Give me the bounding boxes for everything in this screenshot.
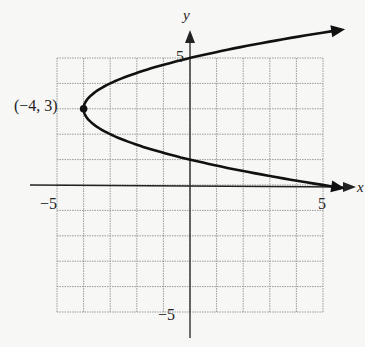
labels: x y −5 5 5 −5 (−4, 3) [14,7,364,323]
y-axis-arrow-icon [185,30,195,43]
y-tick-label-5: 5 [176,48,184,65]
y-axis-label: y [181,7,190,23]
parabola-chart: x y −5 5 5 −5 (−4, 3) [0,0,365,347]
curve-arrow-lower-icon [330,180,345,192]
vertex-point [80,105,88,113]
x-tick-label-neg5: −5 [40,195,57,212]
vertex-label: (−4, 3) [14,97,58,115]
x-axis-label: x [356,179,364,195]
curve-arrow-upper-icon [330,25,345,37]
x-axis-arrow-icon [343,182,356,192]
x-tick-label-5: 5 [318,195,326,212]
axes [30,30,356,338]
y-tick-label-neg5: −5 [158,306,175,323]
